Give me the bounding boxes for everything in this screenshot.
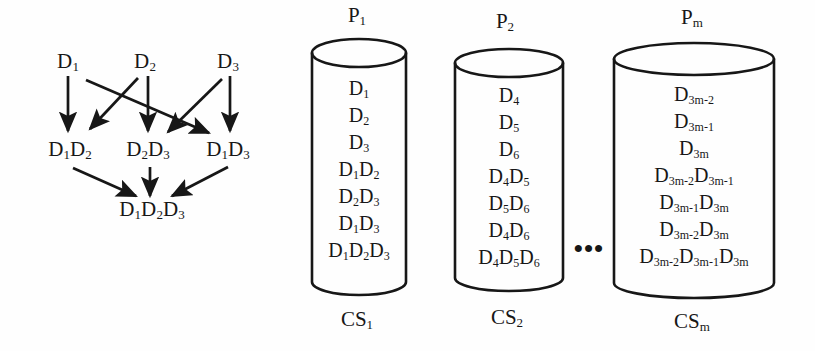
cylinder-1-item-5: D2D3: [339, 186, 380, 208]
figure-canvas: D1 D2 D3 D1D2 D2D3 D1D3 D1D2D3 P1 D1 D2: [0, 0, 815, 351]
cylinder-m-item-4: D3m-2D3m-1: [654, 165, 734, 187]
cylinder-m-item-1: D3m-2: [674, 84, 714, 106]
cylinder-1-item-2: D2: [349, 105, 369, 127]
cylinder-m-bottom-label: CSm: [674, 311, 710, 334]
cylinder-2-item-1: D4: [499, 85, 519, 107]
cylinder-m-item-2: D3m-1: [674, 111, 714, 133]
cylinder-m-item-6: D3m-2D3m: [659, 219, 729, 241]
cylinder-1-item-6: D1D3: [339, 213, 380, 235]
cylinder-1-item-7: D1D2D3: [328, 240, 389, 262]
cylinder-2-bottom-label: CS2: [491, 307, 523, 330]
cylinder-m-item-7: D3m-2D3m-1D3m: [639, 246, 748, 268]
cylinder-1-item-3: D3: [349, 132, 369, 154]
cylinder-m-item-3: D3m: [679, 138, 709, 160]
cylinder-2-item-7: D4D5D6: [478, 247, 539, 269]
cylinder-1-top-label: P1: [348, 5, 366, 28]
cylinder-2-item-5: D5D6: [489, 193, 530, 215]
ellipsis-between-cylinders: •••: [574, 236, 604, 262]
cylinder-1-bottom-label: CS1: [341, 309, 373, 332]
cylinder-m-item-5: D3m-1D3m: [659, 192, 729, 214]
cylinder-2-item-4: D4D5: [489, 166, 530, 188]
cylinder-2-item-6: D4D6: [489, 220, 530, 242]
cylinder-1-item-1: D1: [349, 78, 369, 100]
cylinder-2-item-2: D5: [499, 112, 519, 134]
cylinder-m-top-label: Pm: [681, 7, 703, 30]
cylinder-2-item-3: D6: [499, 139, 519, 161]
cylinder-1-item-4: D1D2: [339, 159, 380, 181]
cylinder-2-top-label: P2: [496, 11, 514, 34]
